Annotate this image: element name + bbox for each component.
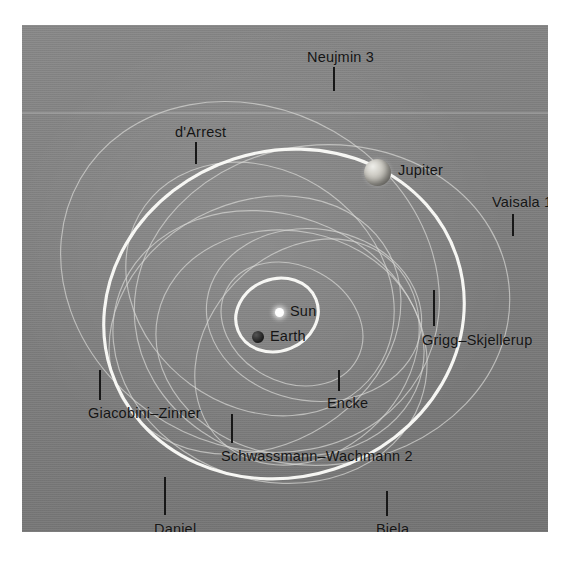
leader-line-biela <box>386 491 388 516</box>
label-biela: Biela <box>376 522 409 532</box>
leader-line-daniel <box>164 477 166 515</box>
jupiter-marker <box>364 159 391 186</box>
label-sun: Sun <box>290 304 316 319</box>
leader-line-giacobini-zinner <box>99 370 101 400</box>
label-jupiter: Jupiter <box>398 163 443 178</box>
label-darrest: d'Arrest <box>175 125 226 140</box>
leader-line-vaisala-1 <box>512 214 514 236</box>
label-earth: Earth <box>270 329 306 344</box>
leader-line-neujmin-3 <box>333 67 335 91</box>
label-daniel: Daniel <box>154 522 196 532</box>
diagram-panel: Neujmin 3 d'Arrest Jupiter Vaisala 1 Sun… <box>22 25 548 532</box>
label-vaisala-1: Vaisala 1 <box>492 195 548 210</box>
orbit-encke <box>199 238 384 410</box>
label-neujmin-3: Neujmin 3 <box>307 50 374 65</box>
sun-marker <box>275 308 284 317</box>
leader-line-darrest <box>195 142 197 164</box>
leader-line-grigg-skjellerup <box>433 290 435 326</box>
leader-line-schwassmann-wachmann-2 <box>231 414 233 443</box>
leader-line-encke <box>338 370 340 391</box>
label-grigg-skjellerup: Grigg–Skjellerup <box>422 333 532 348</box>
orbit-daniel <box>74 167 466 526</box>
earth-marker <box>252 331 264 343</box>
label-giacobini-zinner: Giacobini–Zinner <box>88 406 201 421</box>
label-schwassmann-wachmann-2: Schwassmann–Wachmann 2 <box>221 449 413 464</box>
comet-orbit-figure: Neujmin 3 d'Arrest Jupiter Vaisala 1 Sun… <box>0 0 574 563</box>
label-encke: Encke <box>327 396 368 411</box>
